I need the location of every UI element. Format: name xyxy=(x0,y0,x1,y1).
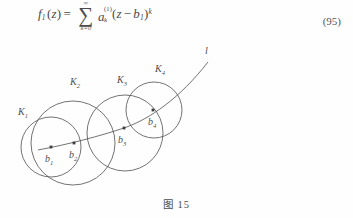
circle-k3 xyxy=(87,95,163,171)
circle-label-k2: K2 xyxy=(69,76,81,89)
circles-group xyxy=(21,82,182,185)
center-point-b2 xyxy=(73,142,76,145)
circle-label-k1: K1 xyxy=(17,106,28,119)
sigma-glyph: ∑ xyxy=(76,7,96,24)
equation-formula: f1 (z)=∞∑k=0ak(1)(z−b1)k xyxy=(38,6,152,24)
line-label-l: l xyxy=(205,45,208,56)
center-dots-group xyxy=(50,109,155,149)
minus-sign: − xyxy=(122,6,134,21)
sum-upper-limit: ∞ xyxy=(76,0,96,6)
figure-page: f1 (z)=∞∑k=0ak(1)(z−b1)k (95) K1K2K3K4 b… xyxy=(0,0,353,218)
center-label-b4: b4 xyxy=(148,116,157,129)
center-point-b1 xyxy=(50,146,53,149)
figure-diagram: K1K2K3K4 b1b2b3b4 l xyxy=(0,40,353,195)
center-point-b4 xyxy=(152,109,155,112)
sum-lower-limit: k=0 xyxy=(76,24,96,31)
figure-caption: 图 15 xyxy=(0,196,353,211)
figure-svg: K1K2K3K4 b1b2b3b4 l xyxy=(0,40,353,195)
center-label-b1: b1 xyxy=(45,153,53,166)
coefficient-superscript: (1) xyxy=(104,5,112,12)
center-labels-group: b1b2b3b4 xyxy=(45,116,157,166)
circle-labels-group: K1K2K3K4 xyxy=(17,63,166,119)
summation-symbol: ∞∑k=0 xyxy=(76,7,96,24)
coefficient-subscript: k xyxy=(104,16,107,24)
center-label-b3: b3 xyxy=(118,134,127,147)
circle-label-k4: K4 xyxy=(154,63,166,76)
coefficient-term: ak(1) xyxy=(98,8,112,22)
term-variable: z xyxy=(116,6,121,21)
center-point-b3 xyxy=(123,127,126,130)
center-label-b2: b2 xyxy=(69,149,78,162)
equation-number: (95) xyxy=(323,15,341,27)
equals-sign: = xyxy=(61,6,73,21)
circle-label-k3: K3 xyxy=(116,74,128,87)
term-center-symbol: b xyxy=(133,6,140,21)
term-exponent: k xyxy=(148,7,152,16)
equation-row: f1 (z)=∞∑k=0ak(1)(z−b1)k (95) xyxy=(0,6,353,40)
